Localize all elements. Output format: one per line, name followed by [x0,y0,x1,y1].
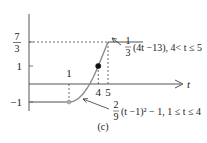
annotations: 13(4t −13), 4< t ≤ 529(t −1)² − 1, 1 ≤ t… [83,35,202,122]
y-tick-label-numerator: 7 [15,31,20,42]
y-ticks: 731−1 [10,31,33,108]
annotation-fraction-numerator: 2 [114,99,119,110]
annotation-formula-parabola: (t −1)² − 1, 1 ≤ t ≤ 4 [121,106,201,118]
annotation-fraction-numerator: 1 [126,35,131,46]
y-tick-label-denominator: 3 [15,43,20,54]
x-ticks: 145 [66,67,111,98]
open-point-marker [67,100,71,104]
curve-linear [98,42,108,66]
annotation-arrow-line [83,99,109,109]
annotation-fraction-denominator: 9 [114,111,119,122]
y-tick-label: 1 [17,60,23,72]
x-axis-label: t [187,78,191,90]
x-tick-label: 1 [66,67,72,79]
annotation-formula-linear: (4t −13), 4< t ≤ 5 [133,42,202,54]
x-tick-label: 4 [96,86,102,98]
y-tick-label: −1 [10,96,22,108]
annotation-fraction-denominator: 3 [126,47,131,58]
filled-point-marker [96,63,101,68]
piecewise-function-chart: t 731−1 145 13(4t −13), 4< t ≤ 529(t −1)… [0,0,207,143]
x-tick-label: 5 [105,86,111,98]
caption: (c) [97,121,108,133]
